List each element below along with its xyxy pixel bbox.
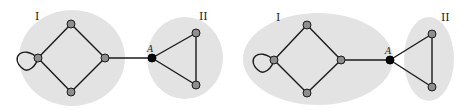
left-panel: I II A [17,10,223,106]
region-two-label: II [441,11,450,24]
region-two [147,17,223,99]
articulation-label: A [146,44,154,54]
articulation-label: A [384,46,392,56]
node [428,83,436,91]
node [303,21,311,29]
node [34,54,42,62]
node [101,54,109,62]
region-one-label: I [35,10,39,23]
node [192,29,200,37]
node [303,89,311,97]
node [67,20,75,28]
node [192,81,200,89]
right-panel: I II A [243,11,454,105]
region-two-label: II [199,10,208,23]
node [270,56,278,64]
node [428,30,436,38]
articulation-node [148,54,156,62]
articulation-node [386,56,394,64]
graph-figure: I II A I II A [0,0,463,111]
region-one [243,13,393,105]
node [67,88,75,96]
region-one-label: I [276,11,280,24]
node [337,56,345,64]
